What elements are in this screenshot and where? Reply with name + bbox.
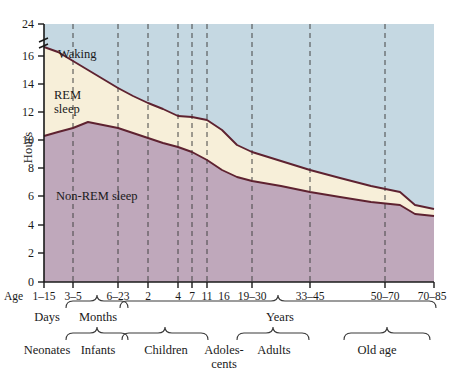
category-label-adolescents-line2: cents	[196, 358, 252, 371]
bracket-old-age	[344, 327, 430, 340]
sleep-chart: Hours 24 16 14 12 10 8 6 4 2 0 Waking RE…	[0, 0, 453, 373]
y-tick-4: 4	[8, 218, 34, 233]
y-tick-12: 12	[8, 105, 34, 120]
y-tick-0: 0	[8, 275, 34, 290]
category-label-infants: Infants	[70, 344, 126, 357]
region-label-non-rem: Non-REM sleep	[56, 190, 138, 204]
bracket-row-life-stages	[66, 327, 430, 340]
x-tick-6-23: 6–23	[99, 290, 137, 302]
x-tick-33-45: 33–45	[290, 290, 330, 302]
x-tick-19-30: 19–30	[232, 290, 272, 302]
y-tick-24: 24	[8, 17, 34, 32]
region-label-waking: Waking	[58, 48, 97, 62]
y-tick-6: 6	[8, 189, 34, 204]
category-label-days: Days	[24, 311, 70, 324]
y-tick-8: 8	[8, 161, 34, 176]
x-tick-3-5: 3–5	[56, 290, 90, 302]
x-tick-70-85: 70–85	[411, 290, 453, 302]
y-tick-2: 2	[8, 246, 34, 261]
y-tick-16: 16	[8, 49, 34, 64]
category-label-years: Years	[255, 311, 305, 324]
bracket-adults	[237, 327, 309, 340]
category-label-adolescents-line1: Adoles-	[196, 344, 252, 357]
category-label-children: Children	[128, 344, 204, 357]
x-tick-2: 2	[138, 290, 158, 302]
category-label-adults: Adults	[246, 344, 302, 357]
bracket-infants	[66, 327, 128, 340]
x-tick-50-70: 50–70	[365, 290, 405, 302]
y-tick-marks	[38, 24, 44, 282]
bracket-children	[122, 327, 208, 340]
region-label-rem-line1: REM	[54, 89, 81, 103]
y-tick-14: 14	[8, 77, 34, 92]
x-axis-age-prefix: Age	[4, 290, 23, 302]
category-label-old-age: Old age	[347, 344, 407, 357]
region-label-rem-line2: sleep	[54, 103, 80, 117]
y-tick-10: 10	[8, 133, 34, 148]
x-tick-16: 16	[214, 290, 234, 302]
category-label-months: Months	[70, 311, 126, 324]
x-tick-marks	[44, 282, 434, 288]
